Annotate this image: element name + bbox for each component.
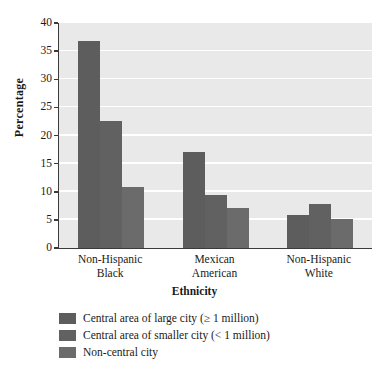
x-axis-category-label: Non-HispanicBlack xyxy=(50,253,170,280)
x-axis-category-label: Non-HispanicWhite xyxy=(259,253,379,280)
y-axis-tick-label: 5 xyxy=(26,214,52,226)
chart-legend: Central area of large city (≥ 1 million)… xyxy=(59,310,270,361)
x-axis-category-line: Black xyxy=(50,267,170,281)
legend-swatch xyxy=(59,347,76,358)
bar xyxy=(287,215,309,248)
y-axis-tick-label: 25 xyxy=(26,101,52,113)
legend-label: Central area of large city (≥ 1 million) xyxy=(83,312,259,324)
y-axis-tick-label: 20 xyxy=(26,130,52,142)
bar xyxy=(309,204,331,248)
x-axis-category-line: American xyxy=(155,267,275,281)
y-axis-tick-label: 15 xyxy=(26,158,52,170)
plot-area xyxy=(58,23,372,249)
bar xyxy=(331,219,353,248)
y-axis-tick-label: 35 xyxy=(26,45,52,57)
y-axis-tick-label: 10 xyxy=(26,186,52,198)
x-axis-category-line: Non-Hispanic xyxy=(50,253,170,267)
bar xyxy=(205,195,227,248)
bar-chart-figure: Percentage 0510152025303540 Non-Hispanic… xyxy=(0,0,389,373)
bar xyxy=(78,41,100,248)
x-axis-category-label: MexicanAmerican xyxy=(155,253,275,280)
bar xyxy=(183,152,205,248)
x-axis-category-line: Mexican xyxy=(155,253,275,267)
legend-item: Non-central city xyxy=(59,344,270,360)
bar xyxy=(122,187,144,248)
legend-swatch xyxy=(59,313,76,324)
legend-label: Non-central city xyxy=(83,346,158,358)
legend-label: Central area of smaller city (< 1 millio… xyxy=(83,329,270,341)
y-axis-tick-label: 40 xyxy=(26,17,52,29)
bar xyxy=(227,208,249,248)
x-axis-category-line: White xyxy=(259,267,379,281)
x-axis-category-line: Non-Hispanic xyxy=(259,253,379,267)
y-axis-tick-label: 0 xyxy=(26,242,52,254)
legend-item: Central area of smaller city (< 1 millio… xyxy=(59,327,270,343)
bar xyxy=(100,121,122,248)
legend-item: Central area of large city (≥ 1 million) xyxy=(59,310,270,326)
legend-swatch xyxy=(59,330,76,341)
x-axis-title: Ethnicity xyxy=(0,285,389,297)
y-axis-tick-label: 30 xyxy=(26,73,52,85)
bars-layer xyxy=(59,23,372,248)
